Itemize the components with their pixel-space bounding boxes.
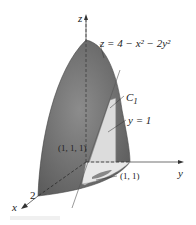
y-axis-arrow-icon — [178, 160, 184, 164]
point-3d-label: (1, 1, 1) — [58, 144, 87, 153]
plane-label: y = 1 — [128, 115, 151, 126]
point-2d-label: (1, 1) — [120, 172, 140, 181]
x-axis-arrow-icon — [21, 203, 28, 209]
z-axis-arrow-icon — [84, 14, 88, 20]
surface-equation-label: z = 4 − x² − 2y² — [100, 38, 170, 49]
x-axis-tick-2: 2 — [30, 190, 36, 201]
z-axis-label: z — [78, 13, 82, 24]
x-axis-label: x — [12, 202, 17, 213]
curve-label: C1 — [126, 92, 138, 106]
faded-caption — [10, 216, 60, 220]
y-axis-label: y — [178, 168, 183, 179]
curve-label-subscript: 1 — [133, 96, 138, 106]
diagram-figure: z z = 4 − x² − 2y² C1 y = 1 (1, 1, 1) (1… — [0, 0, 196, 225]
